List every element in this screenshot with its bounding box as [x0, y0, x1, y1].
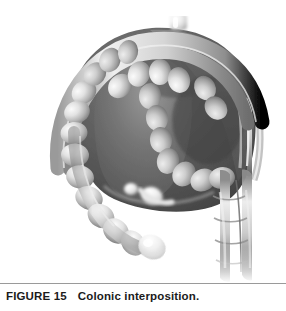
colonic-interposition-illustration	[0, 0, 286, 283]
anastomosis-stub-highlight	[173, 17, 178, 28]
figure-caption-label: FIGURE 15	[6, 290, 67, 302]
figure-caption-title: Colonic interposition.	[78, 290, 200, 302]
figure-caption-block: FIGURE 15Colonic interposition.	[0, 283, 286, 311]
central-loop-small	[124, 183, 138, 195]
caption-divider	[0, 283, 286, 284]
anastomosis-stub-body	[170, 14, 187, 30]
top-fade	[0, 0, 286, 16]
figure-page: FIGURE 15Colonic interposition.	[0, 0, 286, 311]
figure-caption: FIGURE 15Colonic interposition.	[6, 289, 199, 303]
distal-bulb-highlight	[143, 239, 153, 247]
illustration-canvas	[0, 0, 286, 283]
left-fade	[0, 0, 46, 283]
proximal-anastomosis-stub	[170, 14, 187, 30]
